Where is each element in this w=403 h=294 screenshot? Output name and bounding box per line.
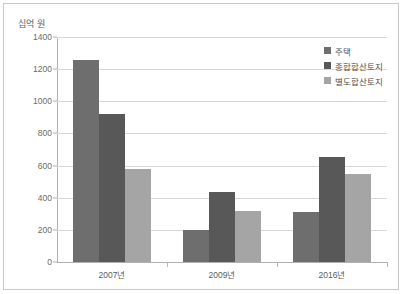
y-tick-label: 200 [38, 225, 52, 235]
bar[interactable] [183, 230, 209, 262]
bar-group [183, 37, 261, 262]
category-separator [167, 262, 168, 267]
y-tick-mark [53, 69, 57, 70]
category-separator [277, 262, 278, 267]
y-tick-mark [53, 37, 57, 38]
legend-swatch-icon [324, 62, 331, 69]
bar[interactable] [73, 60, 99, 263]
legend-label: 종합합산토지 [335, 60, 383, 72]
x-axis-label: 2007년 [99, 268, 126, 280]
legend-item[interactable]: 종합합산토지 [324, 59, 383, 72]
bar[interactable] [345, 174, 371, 262]
chart-legend: 주택종합합산토지별도합산토지 [324, 44, 383, 89]
bar[interactable] [293, 212, 319, 262]
y-axis-title: 십억 원 [18, 17, 46, 30]
y-tick-mark [53, 165, 57, 166]
chart-frame: 십억 원 0200400600800100012001400 2007년2009… [3, 3, 399, 290]
x-axis-label: 2009년 [209, 268, 236, 280]
y-tick-label: 1000 [33, 96, 52, 106]
y-tick-label: 0 [47, 257, 52, 267]
bar[interactable] [319, 157, 345, 262]
bar[interactable] [99, 114, 125, 262]
category-separator [387, 262, 388, 267]
y-tick-label: 1200 [33, 64, 52, 74]
bar[interactable] [125, 169, 151, 262]
y-tick-label: 400 [38, 193, 52, 203]
legend-label: 별도합산토지 [335, 75, 383, 87]
y-tick-mark [53, 229, 57, 230]
legend-item[interactable]: 주택 [324, 44, 383, 57]
y-tick-label: 600 [38, 161, 52, 171]
legend-item[interactable]: 별도합산토지 [324, 74, 383, 87]
gridline: 0 [57, 262, 387, 263]
bar[interactable] [209, 192, 235, 262]
y-tick-mark [53, 133, 57, 134]
y-tick-label: 1400 [33, 32, 52, 42]
y-tick-mark [53, 197, 57, 198]
x-axis-label: 2016년 [319, 268, 346, 280]
legend-swatch-icon [324, 47, 331, 54]
legend-swatch-icon [324, 77, 331, 84]
y-tick-label: 800 [38, 128, 52, 138]
legend-label: 주택 [335, 45, 351, 57]
bar-group [73, 37, 151, 262]
y-tick-mark [53, 262, 57, 263]
bar[interactable] [235, 211, 261, 262]
y-tick-mark [53, 101, 57, 102]
